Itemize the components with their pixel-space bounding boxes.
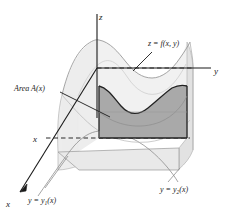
z-axis-label: z [98,12,103,22]
boundary-y1-main: y = y [27,196,45,205]
boundary-y1-tail: (x) [47,196,56,205]
area-label: Area A(x) [13,84,45,93]
y-axis-label: y [213,66,218,76]
base-quadrilateral [58,148,179,170]
boundary-y2-label: y = y2(x) [159,185,188,195]
boundary-y2-main: y = y [159,185,177,194]
solid-cross-section-diagram: z y x x z = f(x, y) Area A(x) y = y1(x) … [0,0,225,221]
x-axis-label: x [5,199,10,209]
boundary-y1-label: y = y1(x) [27,196,56,206]
boundary-y2-tail: (x) [179,185,188,194]
x-axis-arrowhead [20,184,27,192]
x-tick-label: x [32,134,37,144]
figure-container: z y x x z = f(x, y) Area A(x) y = y1(x) … [0,0,225,221]
surface-equation-label: z = f(x, y) [147,39,180,48]
y1-leader-line [45,156,68,188]
